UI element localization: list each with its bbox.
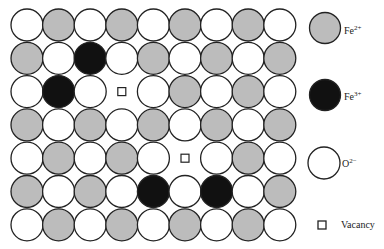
fe2-ion xyxy=(264,42,296,74)
oxygen-ion xyxy=(232,176,264,208)
oxygen-ion xyxy=(264,142,296,174)
oxygen-ion xyxy=(11,76,43,108)
lattice-grid xyxy=(11,9,296,241)
oxygen-ion xyxy=(74,209,106,241)
fe3-ion xyxy=(137,176,169,208)
legend xyxy=(308,13,341,230)
fe2-ion xyxy=(74,109,106,141)
oxygen-ion xyxy=(137,76,169,108)
oxygen-ion xyxy=(11,9,43,41)
fe2-ion xyxy=(232,209,264,241)
fe3-ion xyxy=(201,176,233,208)
oxygen-ion xyxy=(201,209,233,241)
oxygen-ion xyxy=(137,142,169,174)
fe2-ion xyxy=(43,9,75,41)
legend-o2-swatch xyxy=(308,147,340,179)
fe2-ion xyxy=(169,9,201,41)
fe2-ion xyxy=(264,109,296,141)
fe2-ion xyxy=(169,209,201,241)
legend-o2-label: O2− xyxy=(342,158,357,169)
fe2-ion xyxy=(232,9,264,41)
oxygen-ion xyxy=(43,176,75,208)
oxygen-ion xyxy=(137,9,169,41)
legend-fe2-label: Fe2+ xyxy=(344,25,361,36)
oxygen-ion xyxy=(264,76,296,108)
oxygen-ion xyxy=(106,42,138,74)
fe2-ion xyxy=(106,9,138,41)
legend-fe3-charge: 3+ xyxy=(354,90,361,98)
oxygen-ion xyxy=(74,9,106,41)
fe2-ion xyxy=(232,76,264,108)
fe3-ion xyxy=(74,42,106,74)
fe2-ion xyxy=(232,142,264,174)
legend-o2-charge: 2− xyxy=(349,157,356,165)
oxygen-ion xyxy=(43,109,75,141)
legend-fe3-label: Fe3+ xyxy=(344,91,361,102)
fe2-ion xyxy=(201,42,233,74)
fe2-ion xyxy=(11,176,43,208)
oxygen-ion xyxy=(264,209,296,241)
oxygen-ion xyxy=(169,109,201,141)
oxygen-ion xyxy=(106,176,138,208)
oxygen-ion xyxy=(264,9,296,41)
legend-vacancy-label: Vacancy xyxy=(341,220,375,230)
legend-fe2-base: Fe xyxy=(344,25,354,36)
oxygen-ion xyxy=(232,109,264,141)
legend-fe2-charge: 2+ xyxy=(354,24,361,32)
fe2-ion xyxy=(43,142,75,174)
vacancy-marker xyxy=(181,154,189,162)
oxygen-ion xyxy=(169,176,201,208)
oxygen-ion xyxy=(169,42,201,74)
fe2-ion xyxy=(74,176,106,208)
fe2-ion xyxy=(137,42,169,74)
oxygen-ion xyxy=(74,142,106,174)
oxygen-ion xyxy=(11,209,43,241)
legend-fe3-base: Fe xyxy=(344,91,354,102)
fe2-ion xyxy=(106,142,138,174)
fe2-ion xyxy=(106,209,138,241)
fe2-ion xyxy=(169,76,201,108)
lattice-diagram xyxy=(0,0,384,249)
fe2-ion xyxy=(264,176,296,208)
fe2-ion xyxy=(11,42,43,74)
oxygen-ion xyxy=(232,42,264,74)
legend-fe3-swatch xyxy=(310,80,341,111)
oxygen-ion xyxy=(201,76,233,108)
oxygen-ion xyxy=(201,9,233,41)
fe2-ion xyxy=(137,109,169,141)
vacancy-marker xyxy=(118,88,126,96)
oxygen-ion xyxy=(43,42,75,74)
legend-fe2-swatch xyxy=(310,13,341,44)
oxygen-ion xyxy=(11,142,43,174)
fe3-ion xyxy=(43,76,75,108)
oxygen-ion xyxy=(74,76,106,108)
oxygen-ion xyxy=(137,209,169,241)
oxygen-ion xyxy=(201,142,233,174)
oxygen-ion xyxy=(106,109,138,141)
fe2-ion xyxy=(11,109,43,141)
fe2-ion xyxy=(201,109,233,141)
legend-vacancy-swatch xyxy=(318,221,326,229)
fe2-ion xyxy=(43,209,75,241)
